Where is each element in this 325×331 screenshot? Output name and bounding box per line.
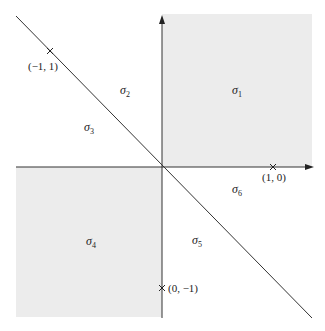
cone-label-sigma6: σ6 [232,182,242,198]
point-label-1-0: (1, 0) [262,171,286,184]
cone-label-sigma3: σ3 [84,120,94,136]
cone-label-sigma2: σ2 [120,83,130,99]
cone-label-sigma5: σ5 [192,233,202,249]
point-label-neg1-1: (−1, 1) [28,60,58,73]
point-label-0-neg1: (0, −1) [168,282,198,295]
point-marker-neg1-1 [47,48,53,54]
fan-diagram: (−1, 1) (1, 0) (0, −1) σ1 σ2 σ3 σ4 σ5 σ6 [0,0,325,331]
